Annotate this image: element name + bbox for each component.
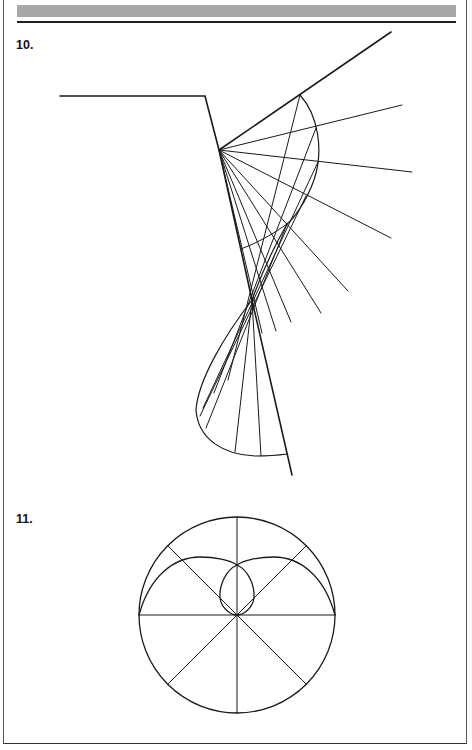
- figure-11-diagram: [0, 0, 472, 750]
